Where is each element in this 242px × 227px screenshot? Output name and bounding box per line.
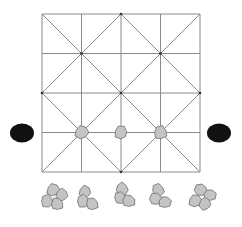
grid-diagonal — [161, 54, 201, 94]
grid-diagonal — [82, 93, 122, 133]
grid-diagonal — [82, 54, 122, 94]
reserve-stone[interactable] — [87, 198, 98, 210]
reserve-pile[interactable] — [42, 184, 68, 210]
intersection-dot — [199, 92, 202, 95]
grid-diagonal — [42, 54, 82, 94]
light-stone-piece[interactable] — [115, 126, 127, 139]
reserve-stone[interactable] — [159, 197, 171, 208]
intersection-dot — [120, 92, 123, 95]
reserve-stone[interactable] — [123, 195, 135, 206]
dark-stone-piece-left[interactable] — [10, 124, 34, 143]
grid-diagonal — [121, 93, 161, 133]
grid-diagonal — [82, 14, 122, 54]
intersection-dot — [41, 92, 44, 95]
board-grid — [41, 13, 202, 174]
intersection-dot — [120, 171, 123, 174]
intersection-dot — [80, 52, 83, 55]
reserve-pile[interactable] — [189, 184, 216, 210]
grid-diagonal — [121, 133, 161, 173]
reserve-pile[interactable] — [149, 183, 171, 207]
grid-diagonal — [42, 93, 82, 133]
intersection-dot — [159, 52, 162, 55]
grid-diagonal — [42, 14, 82, 54]
grid-diagonal — [161, 14, 201, 54]
grid-diagonal — [121, 54, 161, 94]
dark-stone-piece-right[interactable] — [207, 124, 231, 143]
grid-diagonal — [161, 93, 201, 133]
grid-diagonal — [161, 133, 201, 173]
reserve-pile[interactable] — [115, 182, 135, 206]
reserve-stone[interactable] — [42, 194, 54, 207]
grid-diagonal — [42, 133, 82, 173]
reserve-pile[interactable] — [78, 185, 99, 210]
grid-diagonal — [121, 14, 161, 54]
intersection-dot — [120, 13, 123, 16]
reserve-piles — [42, 182, 217, 210]
game-board-canvas — [0, 0, 242, 227]
grid-diagonal — [82, 133, 122, 173]
